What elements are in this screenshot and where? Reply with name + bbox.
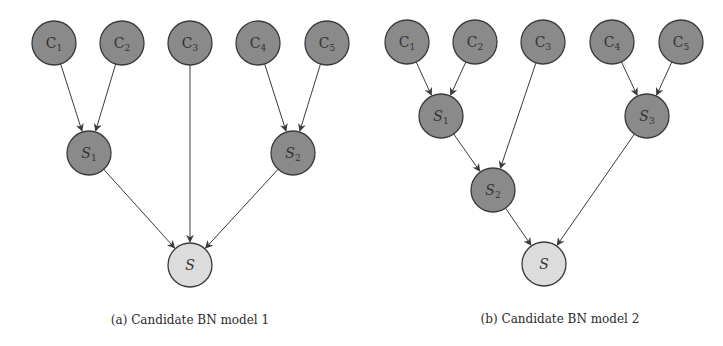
node-c4: C4 bbox=[590, 20, 634, 64]
panel-a-model-1: C1C2C3C4C5S1S2S bbox=[32, 21, 349, 287]
node-s1: S1 bbox=[67, 131, 111, 175]
node-c1: C1 bbox=[32, 21, 76, 65]
edge-c2-to-s1 bbox=[96, 64, 116, 131]
caption-model-2: (b) Candidate BN model 2 bbox=[481, 312, 640, 326]
node-s: S bbox=[168, 243, 212, 287]
node-c2: C2 bbox=[453, 20, 497, 64]
panel-b-model-2: C1C2C3C4C5S1S3S2S bbox=[385, 20, 703, 286]
node-c5: C5 bbox=[659, 20, 703, 64]
node-c4: C4 bbox=[236, 21, 280, 65]
node-c3: C3 bbox=[168, 21, 212, 65]
edge-s1-to-s bbox=[104, 169, 175, 248]
edge-c5-to-s2 bbox=[300, 64, 321, 131]
edge-c3-to-s2 bbox=[500, 63, 536, 168]
node-c2: C2 bbox=[100, 21, 144, 65]
edge-c5-to-s3 bbox=[657, 62, 672, 95]
node-c5: C5 bbox=[305, 21, 349, 65]
node-c3: C3 bbox=[521, 20, 565, 64]
edge-c4-to-s2 bbox=[265, 64, 286, 131]
node-s2: S2 bbox=[271, 131, 315, 175]
node-c1: C1 bbox=[385, 20, 429, 64]
edge-c4-to-s3 bbox=[621, 62, 637, 95]
node-s3: S3 bbox=[625, 94, 669, 138]
edge-s3-to-s bbox=[557, 134, 634, 245]
svg-text:S: S bbox=[539, 256, 549, 272]
edge-s2-to-s bbox=[206, 169, 279, 248]
node-s1: S1 bbox=[419, 94, 463, 138]
bayesian-network-diagram: C1C2C3C4C5S1S2S C1C2C3C4C5S1S3S2S bbox=[0, 0, 723, 346]
node-s: S bbox=[522, 242, 566, 286]
node-s2: S2 bbox=[471, 168, 515, 212]
edge-c2-to-s1 bbox=[451, 62, 466, 95]
edge-s1-to-s2 bbox=[454, 134, 480, 171]
caption-model-1: (a) Candidate BN model 1 bbox=[111, 313, 269, 327]
edge-s2-to-s bbox=[505, 208, 530, 245]
edge-c1-to-s1 bbox=[416, 62, 431, 95]
edge-c1-to-s1 bbox=[61, 64, 82, 131]
svg-text:S: S bbox=[185, 257, 195, 273]
